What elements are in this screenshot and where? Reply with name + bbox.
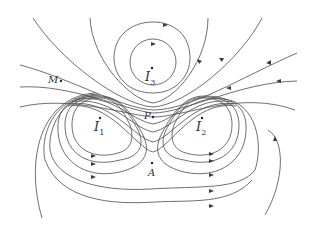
field-line <box>265 130 280 215</box>
label-p: P <box>144 111 151 121</box>
i2-position <box>201 117 203 119</box>
i1-position <box>99 117 101 119</box>
arrow-icon <box>209 152 214 156</box>
point-p <box>152 116 154 118</box>
label-i2: I2 <box>196 120 206 137</box>
arrow-icon <box>209 204 214 208</box>
label-i3: I3 <box>145 70 155 87</box>
label-a: A <box>148 168 155 178</box>
arrow-icon <box>91 162 96 166</box>
label-m: M <box>48 75 58 85</box>
i3-position <box>151 67 153 69</box>
label-i1: I1 <box>94 120 104 137</box>
point-a <box>151 162 153 164</box>
arrow-icon <box>266 60 271 65</box>
arrow-icon <box>219 58 224 62</box>
arrow-icon <box>91 175 96 179</box>
field-line-diagram: I3 I1 I2 P A M <box>0 0 315 240</box>
arrow-icon <box>209 189 214 193</box>
arrow-icon <box>209 173 214 177</box>
outer-lines <box>35 93 280 218</box>
field-lines <box>0 0 315 240</box>
point-m <box>60 80 62 82</box>
arrow-icon <box>151 42 156 46</box>
arrow-icon <box>209 159 214 163</box>
field-line <box>20 81 297 113</box>
